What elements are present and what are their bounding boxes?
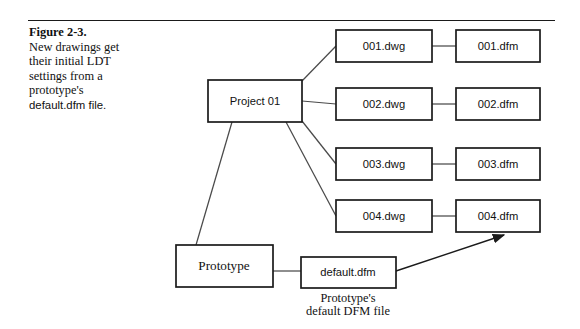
node-003-dfm-label: 003.dfm — [478, 158, 518, 170]
connector-project-to-002 — [302, 101, 336, 104]
node-004-dwg-label: 004.dwg — [363, 210, 405, 222]
node-default-dfm-label: default.dfm — [320, 266, 375, 278]
arrow-defaultdfm-to-004dfm — [396, 235, 504, 271]
annotation-line-2: default DFM file — [306, 304, 390, 318]
node-001-dfm-label: 001.dfm — [478, 40, 518, 52]
node-003-dwg-label: 003.dwg — [363, 158, 405, 170]
connector-project-to-prototype — [196, 122, 232, 245]
node-002-dwg-label: 002.dwg — [363, 98, 405, 110]
diagram-canvas: Project 01 001.dwg 001.dfm 002.dwg 002.d… — [0, 0, 580, 329]
node-001-dwg-label: 001.dwg — [363, 40, 405, 52]
node-004-dfm-label: 004.dfm — [478, 210, 518, 222]
connector-project-to-001 — [302, 46, 336, 81]
node-prototype-label: Prototype — [198, 258, 249, 273]
connector-project-to-003 — [302, 121, 336, 164]
annotation-line-1: Prototype's — [320, 291, 375, 305]
connector-project-to-004 — [286, 122, 336, 216]
node-project-01-label: Project 01 — [230, 95, 280, 107]
figure-page: Figure 2-3. New drawings get their initi… — [0, 0, 580, 329]
node-002-dfm-label: 002.dfm — [478, 98, 518, 110]
